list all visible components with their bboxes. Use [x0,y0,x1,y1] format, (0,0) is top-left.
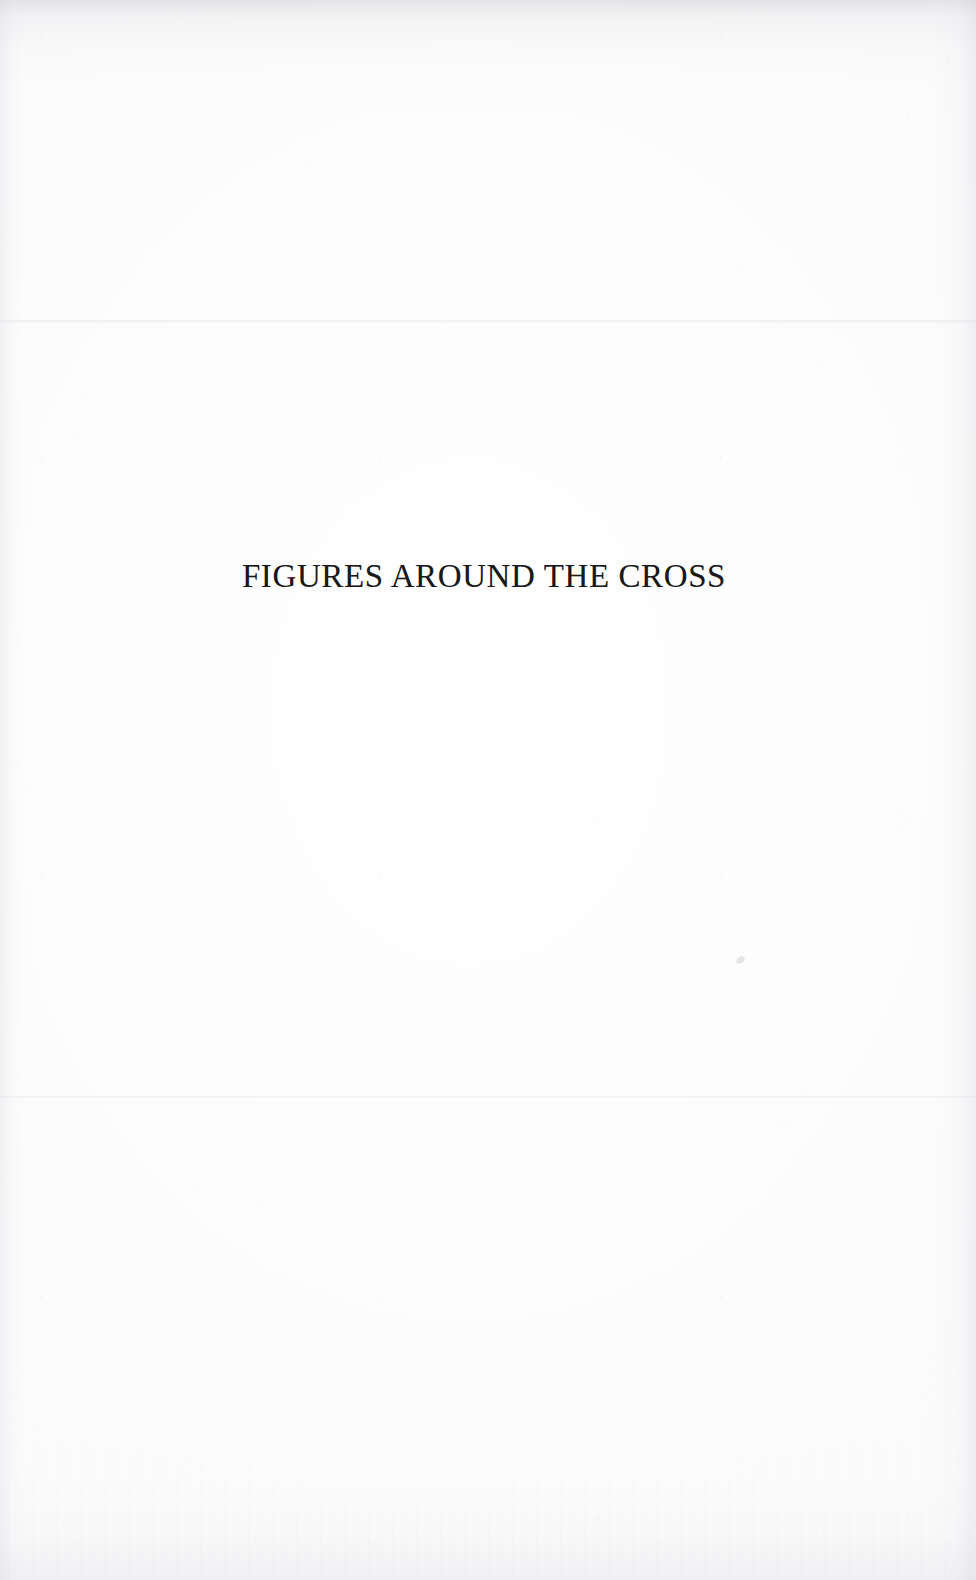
page-title: FIGURES AROUND THE CROSS [0,558,972,594]
paper-speck [735,955,746,965]
scan-seam-lower [0,1096,976,1098]
paper-grain-texture [0,0,976,1580]
page-edge-shadow-right [916,0,976,1580]
page-edge-shadow-bottom [0,1430,976,1580]
page-edge-shadow-left [0,0,34,1580]
scanned-page: FIGURES AROUND THE CROSS [0,0,976,1580]
scan-seam-upper [0,320,976,323]
page-edge-shadow-top [0,0,976,120]
scan-streak-texture [0,1320,976,1580]
title-block: FIGURES AROUND THE CROSS [0,558,976,594]
